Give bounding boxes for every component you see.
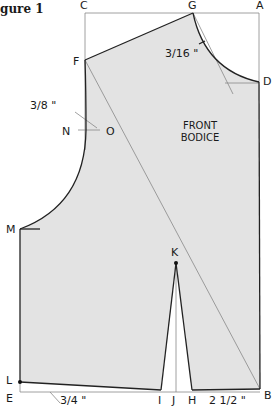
- dart-offset-measure: 2 1/2 ": [209, 395, 246, 406]
- armhole-measure: 3/8 ": [30, 100, 56, 111]
- front-bodice-shape: [20, 13, 260, 390]
- label-c: C: [80, 0, 88, 11]
- label-b: B: [264, 390, 272, 401]
- pattern-name: FRONT BODICE: [160, 120, 240, 144]
- label-a: A: [256, 0, 264, 11]
- point-k-marker: [174, 261, 178, 265]
- pattern-name-line2: BODICE: [160, 132, 240, 144]
- pattern-name-line1: FRONT: [160, 120, 240, 132]
- waist-measure: 3/4 ": [60, 395, 86, 406]
- label-n: N: [62, 126, 70, 137]
- label-o: O: [106, 126, 115, 137]
- label-g: G: [188, 0, 197, 11]
- label-l: L: [6, 375, 12, 386]
- label-i: I: [158, 395, 161, 406]
- label-k: K: [171, 247, 178, 258]
- label-d: D: [263, 76, 271, 87]
- label-j: J: [172, 395, 175, 406]
- point-l-marker: [18, 380, 22, 384]
- figure-title: gure 1: [0, 2, 44, 16]
- label-e: E: [6, 393, 13, 404]
- neck-measure: 3/16 ": [165, 48, 198, 59]
- label-m: M: [6, 224, 16, 235]
- label-h: H: [188, 395, 196, 406]
- label-f: F: [73, 56, 79, 67]
